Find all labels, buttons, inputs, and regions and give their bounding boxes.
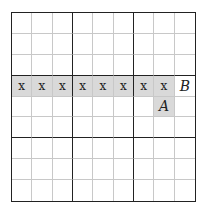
grid-cell-r2c6	[114, 34, 134, 55]
grid-cell-r6c5	[93, 117, 113, 138]
grid-cell-r8c6	[114, 159, 134, 180]
grid-cell-r5c4	[73, 97, 93, 118]
grid-cell-r7c6	[114, 138, 134, 159]
grid-cell-r2c8	[154, 34, 174, 55]
grid-cell-r3c5	[93, 55, 113, 76]
grid-cell-r3c4	[73, 55, 93, 76]
grid-cell-r1c9	[175, 13, 195, 34]
grid-cell-r4c2: x	[32, 76, 52, 97]
grid-cell-r7c5	[93, 138, 113, 159]
cell-mark: x	[79, 79, 86, 93]
grid-cell-r6c7	[134, 117, 154, 138]
cell-mark: x	[161, 79, 168, 93]
grid-cell-r7c3	[53, 138, 73, 159]
grid-cell-r9c5	[93, 180, 113, 201]
grid-cell-r7c8	[154, 138, 174, 159]
grid-cell-r9c6	[114, 180, 134, 201]
grid-cell-r5c5	[93, 97, 113, 118]
grid-cell-r5c3	[53, 97, 73, 118]
grid-cell-r9c1	[12, 180, 32, 201]
grid-cell-r8c2	[32, 159, 52, 180]
grid-cell-r5c9	[175, 97, 195, 118]
grid-cell-r3c7	[134, 55, 154, 76]
grid-cell-r8c8	[154, 159, 174, 180]
grid-cell-r3c6	[114, 55, 134, 76]
grid-cell-r7c4	[73, 138, 93, 159]
cell-mark: x	[59, 79, 66, 93]
grid-cell-r1c8	[154, 13, 174, 34]
grid-cell-r7c7	[134, 138, 154, 159]
grid-cell-r2c3	[53, 34, 73, 55]
grid-cell-r4c9: B	[175, 76, 195, 97]
grid-cell-r8c3	[53, 159, 73, 180]
grid-cell-r1c2	[32, 13, 52, 34]
grid-cell-r4c5: x	[93, 76, 113, 97]
cell-label: B	[180, 78, 190, 94]
grid-cell-r1c1	[12, 13, 32, 34]
grid-cell-r3c3	[53, 55, 73, 76]
grid-cell-r3c8	[154, 55, 174, 76]
cell-mark: x	[120, 79, 127, 93]
grid-cell-r6c4	[73, 117, 93, 138]
grid-cell-r2c7	[134, 34, 154, 55]
cell-mark: x	[100, 79, 107, 93]
grid-cell-r4c3: x	[53, 76, 73, 97]
cell-mark: x	[140, 79, 147, 93]
grid-cell-r5c2	[32, 97, 52, 118]
grid-cell-r6c2	[32, 117, 52, 138]
grid-cell-r2c5	[93, 34, 113, 55]
grid-cell-r1c3	[53, 13, 73, 34]
grid-cell-r8c4	[73, 159, 93, 180]
grid-cell-r8c9	[175, 159, 195, 180]
grid-cell-r1c5	[93, 13, 113, 34]
grid-cell-r1c7	[134, 13, 154, 34]
grid-cell-r6c6	[114, 117, 134, 138]
grid-cell-r5c6	[114, 97, 134, 118]
grid-cell-r6c1	[12, 117, 32, 138]
cell-mark: x	[18, 79, 25, 93]
grid-cell-r2c9	[175, 34, 195, 55]
grid-cell-r9c8	[154, 180, 174, 201]
grid-cell-r2c4	[73, 34, 93, 55]
grid-cell-r1c4	[73, 13, 93, 34]
cell-label: A	[159, 98, 169, 114]
grid-cell-r9c3	[53, 180, 73, 201]
grid-cell-r6c3	[53, 117, 73, 138]
grid-cell-r3c9	[175, 55, 195, 76]
grid-cell-r4c6: x	[114, 76, 134, 97]
sudoku-grid: xxxxxxxxBA	[11, 12, 196, 202]
grid-cell-r9c4	[73, 180, 93, 201]
grid-cell-r9c9	[175, 180, 195, 201]
grid-cell-r8c1	[12, 159, 32, 180]
grid-cell-r9c2	[32, 180, 52, 201]
grid-cell-r4c1: x	[12, 76, 32, 97]
grid-cell-r5c7	[134, 97, 154, 118]
grid-cell-r2c1	[12, 34, 32, 55]
grid-cell-r2c2	[32, 34, 52, 55]
grid-cell-r4c8: x	[154, 76, 174, 97]
grid-cell-r5c1	[12, 97, 32, 118]
grid-cell-r6c8	[154, 117, 174, 138]
grid-cell-r3c1	[12, 55, 32, 76]
grid-cell-r8c7	[134, 159, 154, 180]
grid-cell-r6c9	[175, 117, 195, 138]
grid-cell-r7c1	[12, 138, 32, 159]
grid-cell-r1c6	[114, 13, 134, 34]
grid-cell-r5c8: A	[154, 97, 174, 118]
grid-cell-r8c5	[93, 159, 113, 180]
grid-cell-r4c4: x	[73, 76, 93, 97]
grid-cell-r4c7: x	[134, 76, 154, 97]
grid-cell-r3c2	[32, 55, 52, 76]
cell-mark: x	[39, 79, 46, 93]
grid-cell-r7c9	[175, 138, 195, 159]
grid-cell-r7c2	[32, 138, 52, 159]
grid-cell-r9c7	[134, 180, 154, 201]
